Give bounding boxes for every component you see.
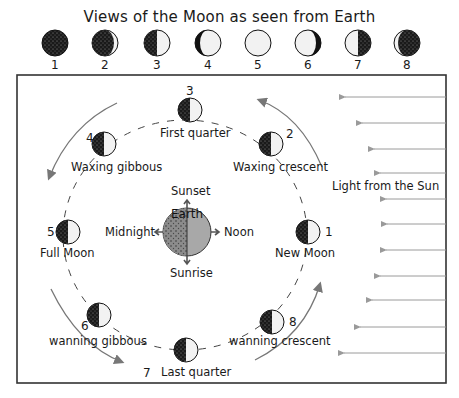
orbit-number-5: 5 <box>47 226 55 238</box>
orbit-number-8: 8 <box>289 316 297 328</box>
view-number-7: 7 <box>354 59 362 71</box>
orbit-label-5: Full Moon <box>40 248 95 260</box>
earth-midnight-label: Midnight <box>105 227 155 239</box>
orbit-number-7: 7 <box>143 367 151 379</box>
orbit-label-6: wanning gibbous <box>49 336 147 348</box>
view-number-5: 5 <box>254 59 262 71</box>
earth-sunrise-label: Sunrise <box>170 268 213 280</box>
orbit-moon-7-icon <box>174 338 198 362</box>
view-8-waning-crescent-icon <box>394 30 420 56</box>
view-6-waning-gibbous-icon <box>295 30 321 56</box>
orbit-moon-1-icon <box>296 220 320 244</box>
earth-label: Earth <box>171 208 203 220</box>
view-number-1: 1 <box>51 59 59 71</box>
orbit-label-1: New Moon <box>275 248 335 260</box>
orbit-moon-4-icon <box>92 132 116 156</box>
view-3-first-quarter-icon <box>144 30 170 56</box>
view-5-full-moon-icon <box>245 30 271 56</box>
orbit-label-8: wanning crescent <box>229 336 331 348</box>
orbit-label-2: Waxing crescent <box>233 162 328 174</box>
orbit-number-4: 4 <box>86 132 94 144</box>
view-number-6: 6 <box>304 59 312 71</box>
orbit-moon-2-icon <box>259 132 283 156</box>
orbit-number-1: 1 <box>325 226 333 238</box>
sunlight-label: Light from the Sun <box>332 181 439 193</box>
earth-noon-label: Noon <box>224 227 254 239</box>
view-2-waxing-crescent-icon <box>92 30 118 56</box>
orbit-moon-3-icon <box>178 98 202 122</box>
moon-phases-diagram: Views of the Moon as seen from Earth <box>0 0 459 398</box>
orbit-moon-6-icon <box>87 303 111 327</box>
orbit-number-3: 3 <box>186 85 194 97</box>
earth-sunset-label: Sunset <box>171 186 210 198</box>
view-7-last-quarter-icon <box>345 30 371 56</box>
view-number-4: 4 <box>204 59 212 71</box>
orbit-label-4: Waxing gibbous <box>71 162 162 174</box>
views-row <box>42 30 420 56</box>
view-4-waxing-gibbous-icon <box>195 30 221 56</box>
view-number-2: 2 <box>101 59 109 71</box>
sunlight-arrows <box>344 97 446 353</box>
orbit-label-7: Last quarter <box>161 367 231 379</box>
orbit-number-2: 2 <box>286 128 294 140</box>
orbit-label-3: First quarter <box>160 128 231 140</box>
orbit-number-6: 6 <box>81 320 89 332</box>
view-number-3: 3 <box>153 59 161 71</box>
orbit-moon-5-icon <box>56 220 80 244</box>
orbit-moon-8-icon <box>260 310 284 334</box>
view-number-8: 8 <box>403 59 411 71</box>
view-1-new-moon-icon <box>42 30 68 56</box>
